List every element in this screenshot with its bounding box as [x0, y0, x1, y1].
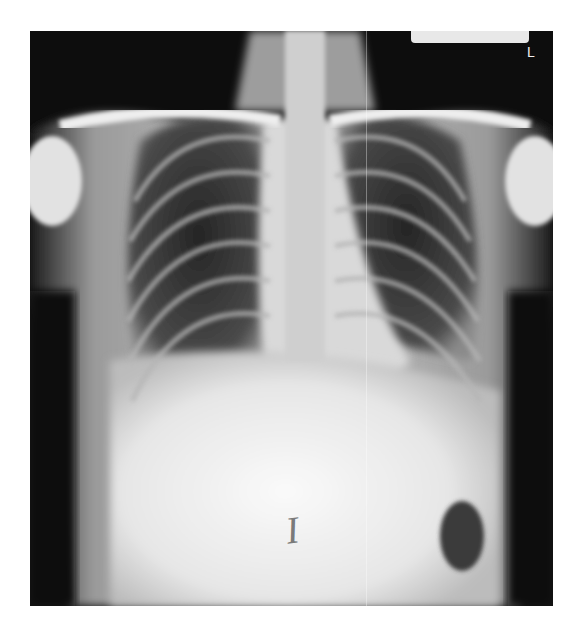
side-marker: L	[527, 44, 535, 60]
patient-label-box	[411, 31, 529, 43]
film-seam-line	[366, 31, 367, 606]
chest-xray-image: L I	[30, 31, 553, 606]
